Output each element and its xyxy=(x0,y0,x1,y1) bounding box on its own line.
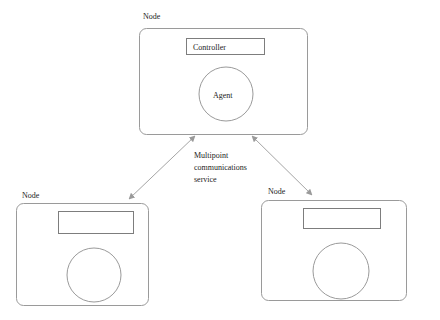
connector-label-line-3: service xyxy=(194,174,256,186)
node-box-bottom-left xyxy=(17,204,149,306)
controller-box-bottom-left xyxy=(59,212,134,234)
connector-label-line-1: Multipoint xyxy=(194,150,256,162)
controller-box-bottom-right xyxy=(304,209,381,229)
node-box-bottom-right xyxy=(262,201,407,301)
connector-label-line-2: communications xyxy=(194,162,256,174)
agent-label-top: Agent xyxy=(213,90,233,101)
diagram-canvas: Node Controller Agent Multipoint communi… xyxy=(0,0,440,320)
connector-top-to-bottom-left xyxy=(129,136,195,199)
controller-label-top: Controller xyxy=(193,42,226,53)
node-label-bottom-right: Node xyxy=(268,186,285,197)
node-label-top: Node xyxy=(143,11,160,22)
node-label-bottom-left: Node xyxy=(22,190,39,201)
agent-circle-bottom-right xyxy=(313,243,369,299)
agent-circle-bottom-left xyxy=(67,248,121,302)
connector-label-multipoint-communications-service: Multipoint communications service xyxy=(194,150,256,186)
